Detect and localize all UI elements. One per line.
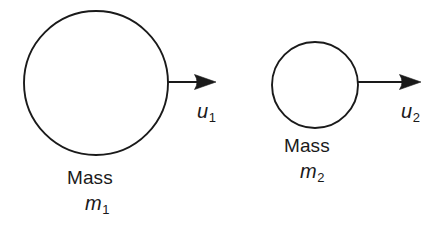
velocity-2-symbol-subscript: 2: [413, 110, 420, 125]
velocity-2-symbol-label: u2: [401, 101, 420, 124]
mass-1-text-label: Mass: [67, 168, 113, 187]
velocity-1-symbol-label: u1: [197, 101, 216, 124]
mass-2-text-label: Mass: [284, 136, 330, 155]
mass-1-symbol-base: m: [85, 192, 102, 214]
mass-2-symbol-subscript: 2: [317, 170, 324, 185]
velocity-1-symbol-subscript: 1: [209, 110, 216, 125]
velocity-1-arrowhead: [195, 75, 217, 90]
mass-1-symbol-label: m1: [85, 193, 109, 216]
velocity-1-symbol-base: u: [197, 100, 208, 122]
velocity-2-arrowhead: [400, 75, 422, 90]
mass-2-symbol-base: m: [300, 160, 317, 182]
velocity-2-symbol-base: u: [401, 100, 412, 122]
diagram-canvas: [0, 0, 442, 228]
mass-1-symbol-subscript: 1: [102, 202, 109, 217]
mass-1-circle: [24, 11, 168, 155]
mass-2-circle: [272, 42, 358, 128]
physics-diagram: Mass m1 u1 Mass m2 u2: [0, 0, 442, 228]
mass-2-symbol-label: m2: [300, 161, 324, 184]
